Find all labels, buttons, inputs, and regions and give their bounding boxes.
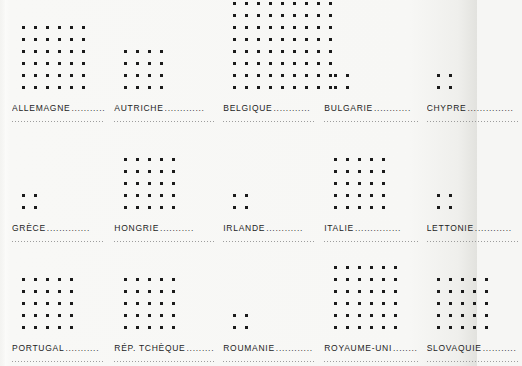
unit-dot [68,300,80,312]
unit-dot [32,60,44,72]
unit-dot [44,48,56,60]
unit-dot [447,84,459,96]
unit-dot [32,48,44,60]
unit-dot [344,84,356,96]
unit-dot [291,24,303,36]
unit-dot [122,192,134,204]
unit-dot [344,72,356,84]
country-label: ALLEMAGNE [12,103,70,113]
country-panel: CHYPRE............... [427,2,522,122]
unit-dot [134,168,146,180]
unit-dot [291,48,303,60]
unit-dot [56,84,68,96]
unit-dot [380,288,392,300]
unit-dot [255,24,267,36]
unit-dot [146,300,158,312]
unit-dot [158,60,170,72]
country-panel: AUTRICHE............. [114,2,223,122]
unit-dot [332,168,344,180]
unit-dot [255,48,267,60]
panel-label-row: CHYPRE............... [427,103,519,116]
unit-dot [32,276,44,288]
unit-dot [134,324,146,336]
unit-dot [243,12,255,24]
unit-dot [122,84,134,96]
unit-dot [32,300,44,312]
dot-leader: ......... [187,343,215,353]
unit-dot [435,204,447,216]
unit-dot [32,192,44,204]
country-label: PORTUGAL [12,343,64,353]
unit-dot [459,324,471,336]
unit-dot [32,288,44,300]
unit-dot [344,264,356,276]
unit-dot [20,48,32,60]
unit-dot [122,48,134,60]
dot-matrix-plot [332,258,416,336]
dot-leader: ........ [393,343,418,353]
unit-dot [231,48,243,60]
dot-leader: ............... [355,223,418,233]
panel-rule [223,361,315,362]
dot-field [231,312,255,336]
unit-dot [56,36,68,48]
unit-dot [380,300,392,312]
unit-dot [368,300,380,312]
unit-dot [332,312,344,324]
unit-dot [344,180,356,192]
unit-dot [68,324,80,336]
unit-dot [158,192,170,204]
unit-dot [170,204,182,216]
panel-rule [324,361,417,362]
country-label: IRLANDE [223,223,265,233]
unit-dot [20,300,32,312]
unit-dot [80,72,92,84]
unit-dot [392,264,404,276]
unit-dot [122,324,134,336]
unit-dot [392,276,404,288]
unit-dot [447,312,459,324]
unit-dot [56,72,68,84]
unit-dot [146,288,158,300]
unit-dot [80,24,92,36]
unit-dot [134,312,146,324]
unit-dot [146,180,158,192]
unit-dot [267,84,279,96]
dot-matrix-plot [20,138,104,216]
country-label: HONGRIE [114,223,159,233]
unit-dot [435,192,447,204]
unit-dot [231,24,243,36]
unit-dot [356,312,368,324]
dot-matrix-plot [20,18,104,96]
unit-dot [158,156,170,168]
unit-dot [231,192,243,204]
unit-dot [483,300,495,312]
unit-dot [291,36,303,48]
unit-dot [134,72,146,84]
unit-dot [459,312,471,324]
unit-dot [32,24,44,36]
unit-dot [303,12,315,24]
country-panel: GRÈCE.............. [12,122,114,242]
dot-field [435,276,495,336]
unit-dot [44,324,56,336]
unit-dot [158,276,170,288]
unit-dot [380,204,392,216]
dot-matrix-plot [122,18,206,96]
unit-dot [279,12,291,24]
dot-field [332,264,404,336]
unit-dot [255,72,267,84]
unit-dot [122,312,134,324]
unit-dot [56,312,68,324]
unit-dot [267,0,279,12]
dot-field [231,192,255,216]
unit-dot [68,60,80,72]
unit-dot [447,204,459,216]
unit-dot [146,168,158,180]
dot-leader: ............ [266,223,315,233]
unit-dot [471,312,483,324]
unit-dot [447,300,459,312]
panel-label-row: AUTRICHE............. [114,103,214,116]
dot-leader: ............ [475,223,519,233]
